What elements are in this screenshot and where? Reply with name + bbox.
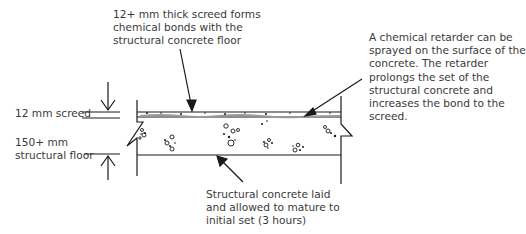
concrete-aggregate-dots	[140, 120, 336, 151]
right-callout: A chemical retarder can be sprayed on th…	[369, 31, 526, 123]
right-callout-line-3: concrete. The retarder	[369, 57, 526, 70]
bottom-callout-line-1: Structural concrete laid	[206, 188, 340, 201]
bottom-callout-line-2: and allowed to mature to	[206, 201, 340, 214]
leader-right	[305, 79, 362, 116]
floor-dimension-label: 150+ mm structural floor	[15, 136, 94, 162]
top-callout-line-1: 12+ mm thick screed forms	[113, 8, 261, 21]
floor-dimension-line-2: structural floor	[15, 149, 94, 162]
right-callout-line-7: screed.	[369, 110, 526, 123]
right-callout-line-4: prolongs the set of the	[369, 71, 526, 84]
top-callout-line-3: structural concrete floor	[113, 34, 261, 47]
floor-dimension-line-1: 150+ mm	[15, 136, 94, 149]
right-callout-line-1: A chemical retarder can be	[369, 31, 526, 44]
right-callout-line-6: increases the bond to the	[369, 97, 526, 110]
screed-dimension-label: 12 mm screed	[15, 107, 91, 120]
bottom-callout-line-3: initial set (3 hours)	[206, 214, 340, 227]
top-callout: 12+ mm thick screed forms chemical bonds…	[113, 8, 261, 48]
leader-top	[180, 49, 196, 111]
top-callout-line-2: chemical bonds with the	[113, 21, 261, 34]
right-callout-line-2: sprayed on the surface of the	[369, 44, 526, 57]
leader-bottom	[217, 156, 243, 182]
slab-outline	[127, 96, 352, 184]
right-callout-line-5: structural concrete and	[369, 84, 526, 97]
concrete-aggregate	[139, 124, 330, 152]
bottom-callout: Structural concrete laid and allowed to …	[206, 188, 340, 228]
